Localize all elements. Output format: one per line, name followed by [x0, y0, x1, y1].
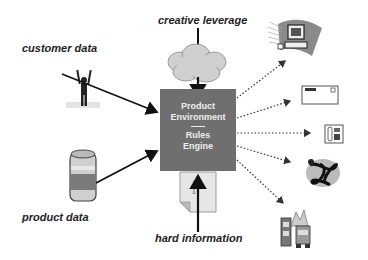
factory-icon	[281, 210, 310, 248]
input-label-hard-information: hard information	[155, 232, 242, 244]
input-label-product-data: product data	[22, 211, 89, 223]
output-arrow-envelope	[237, 101, 290, 118]
input-label-customer-data: customer data	[22, 42, 97, 54]
engine-line-rules: Rules	[160, 130, 236, 141]
envelope-icon	[302, 86, 338, 104]
output-arrow-network	[237, 146, 290, 162]
computer-icon	[268, 20, 322, 56]
engine-line-product: Product	[160, 101, 236, 112]
soda-can-icon	[70, 150, 96, 201]
engine-separator	[191, 126, 205, 127]
output-arrow-factory	[237, 160, 283, 203]
engine-line-engine: Engine	[160, 141, 236, 152]
person-arms-raised-icon	[66, 70, 100, 108]
cloud-icon	[168, 28, 226, 97]
engine-line-environment: Environment	[160, 112, 236, 123]
svg-text:i: i	[191, 178, 196, 198]
input-label-creative-leverage: creative leverage	[158, 14, 247, 26]
output-arrow-computer	[237, 61, 285, 98]
tangled-network-icon	[306, 159, 340, 187]
telephone-icon	[325, 125, 343, 143]
info-document-icon: i	[180, 172, 216, 232]
product-environment-rules-engine-box: Product Environment Rules Engine	[160, 89, 236, 171]
